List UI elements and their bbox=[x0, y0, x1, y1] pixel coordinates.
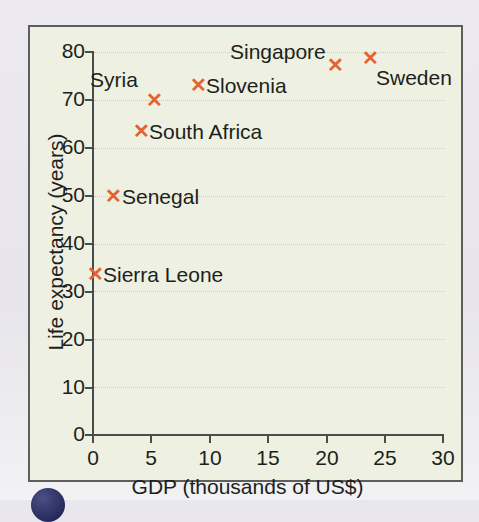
x-tick-20 bbox=[326, 436, 328, 443]
x-axis-title: GDP (thousands of US$) bbox=[30, 475, 465, 499]
y-tick-60 bbox=[85, 147, 92, 149]
y-axis-line bbox=[92, 51, 94, 436]
y-tick-70 bbox=[85, 99, 92, 101]
y-tick-50 bbox=[85, 195, 92, 197]
x-tick-25 bbox=[384, 436, 386, 443]
data-point-label-singapore: Singapore bbox=[230, 41, 326, 62]
y-tick-20 bbox=[85, 339, 92, 341]
chart-figure-frame: 80 70 60 50 40 30 20 10 0 0 5 10 bbox=[28, 25, 463, 482]
x-tick-label-25: 25 bbox=[365, 447, 405, 468]
x-tick-15 bbox=[267, 436, 269, 443]
y-axis-title: Life expectancy (years) bbox=[44, 77, 68, 407]
y-tick-0 bbox=[85, 434, 92, 436]
scatter-marker-x-icon: ✕ bbox=[87, 265, 103, 283]
data-point-label-senegal: Senegal bbox=[122, 186, 199, 207]
gridline-10 bbox=[94, 387, 444, 389]
data-point-label-slovenia: Slovenia bbox=[206, 75, 287, 96]
x-tick-5 bbox=[150, 436, 152, 443]
data-point-label-syria: Syria bbox=[90, 69, 138, 90]
scatter-marker-x-icon: ✕ bbox=[190, 76, 206, 94]
scatter-marker-x-icon: ✕ bbox=[146, 91, 162, 109]
x-tick-label-10: 10 bbox=[190, 447, 230, 468]
x-tick-0 bbox=[92, 436, 94, 443]
y-tick-10 bbox=[85, 387, 92, 389]
y-tick-label-80: 80 bbox=[33, 40, 85, 61]
x-tick-label-20: 20 bbox=[307, 447, 347, 468]
x-tick-label-5: 5 bbox=[131, 447, 171, 468]
gridline-20 bbox=[94, 339, 444, 341]
x-tick-label-0: 0 bbox=[73, 447, 113, 468]
data-point-label-sweden: Sweden bbox=[376, 67, 452, 88]
page-corner-badge-circle bbox=[31, 488, 65, 522]
data-point-label-south-africa: South Africa bbox=[149, 121, 262, 142]
y-tick-40 bbox=[85, 243, 92, 245]
x-tick-30 bbox=[442, 436, 444, 443]
x-tick-10 bbox=[209, 436, 211, 443]
data-point-label-sierra-leone: Sierra Leone bbox=[103, 264, 223, 285]
gridline-40 bbox=[94, 244, 444, 246]
y-tick-80 bbox=[85, 51, 92, 53]
x-tick-label-15: 15 bbox=[248, 447, 288, 468]
x-tick-label-30: 30 bbox=[423, 447, 463, 468]
gridline-30 bbox=[94, 291, 444, 293]
y-tick-30 bbox=[85, 291, 92, 293]
scatter-marker-x-icon: ✕ bbox=[362, 49, 378, 67]
scatter-marker-x-icon: ✕ bbox=[327, 56, 343, 74]
y-tick-label-0: 0 bbox=[33, 423, 85, 444]
scatter-plot-area: 80 70 60 50 40 30 20 10 0 0 5 10 bbox=[30, 27, 465, 484]
gridline-60 bbox=[94, 148, 444, 150]
scatter-marker-x-icon: ✕ bbox=[105, 187, 121, 205]
scatter-marker-x-icon: ✕ bbox=[133, 122, 149, 140]
